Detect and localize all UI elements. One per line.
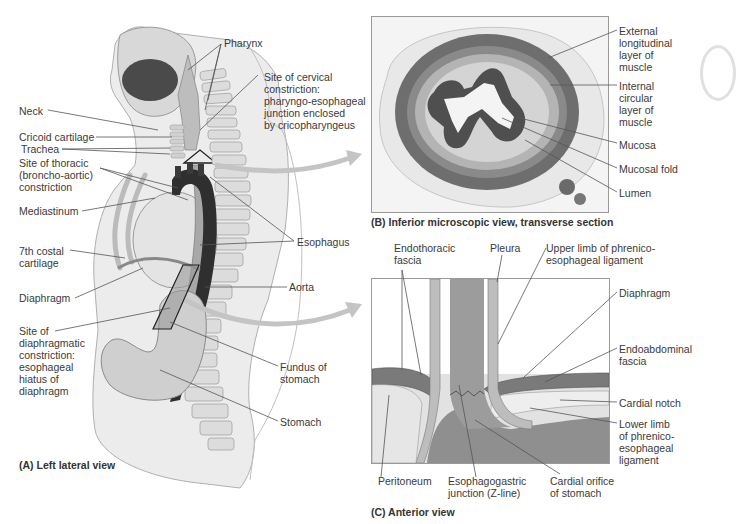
label-esophagogastric-junction: Esophagogastric junction (Z-line) — [448, 475, 526, 499]
label-aorta: Aorta — [289, 281, 314, 293]
label-stomach: Stomach — [280, 416, 321, 428]
label-external-longitudinal-muscle: External longitudinal layer of muscle — [619, 25, 672, 73]
panel-c-illustration — [371, 278, 610, 464]
label-diaphragm: Diaphragm — [19, 292, 70, 304]
label-diaphragmatic-constriction: Site of diaphragmatic constriction: esop… — [19, 325, 85, 397]
label-internal-circular-muscle: Internal circular layer of muscle — [619, 80, 654, 128]
label-lower-limb-phrenico-esophageal: Lower limb of phrenico- esophageal ligam… — [619, 418, 674, 466]
label-diaphragm-c: Diaphragm — [619, 287, 670, 299]
label-pleura: Pleura — [490, 242, 520, 254]
label-upper-limb-phrenico-esophageal: Upper limb of phrenico- esophageal ligam… — [546, 242, 655, 266]
label-mucosa: Mucosa — [619, 139, 656, 151]
label-cervical-constriction: Site of cervical constriction: pharyngo-… — [264, 71, 366, 131]
label-esophagus: Esophagus — [297, 236, 350, 248]
label-mediastinum: Mediastinum — [19, 205, 79, 217]
label-lumen: Lumen — [619, 187, 651, 199]
panel-b-micrograph — [371, 16, 609, 213]
tongue — [122, 59, 178, 101]
label-trachea: Trachea — [21, 143, 59, 155]
label-endoabdominal-fascia: Endoabdominal fascia — [619, 343, 692, 367]
caption-panel-b: (B) Inferior microscopic view, transvers… — [371, 216, 613, 228]
label-peritoneum: Peritoneum — [378, 475, 432, 487]
label-fundus-of-stomach: Fundus of stomach — [280, 361, 327, 385]
caption-panel-a: (A) Left lateral view — [19, 459, 115, 471]
trachea-rings — [170, 125, 185, 158]
label-7th-costal-cartilage: 7th costal cartilage — [19, 245, 64, 269]
label-endothoracic-fascia: Endothoracic fascia — [394, 242, 455, 266]
label-thoracic-constriction: Site of thoracic (broncho-aortic) constr… — [19, 157, 93, 193]
label-neck: Neck — [19, 105, 43, 117]
edge-decoration — [700, 45, 736, 101]
label-cardial-orifice: Cardial orifice of stomach — [550, 475, 614, 499]
label-cricoid-cartilage: Cricoid cartilage — [19, 131, 94, 143]
label-pharynx: Pharynx — [224, 37, 263, 49]
label-mucosal-fold: Mucosal fold — [619, 163, 678, 175]
label-cardial-notch: Cardial notch — [619, 397, 681, 409]
caption-panel-c: (C) Anterior view — [371, 506, 455, 518]
